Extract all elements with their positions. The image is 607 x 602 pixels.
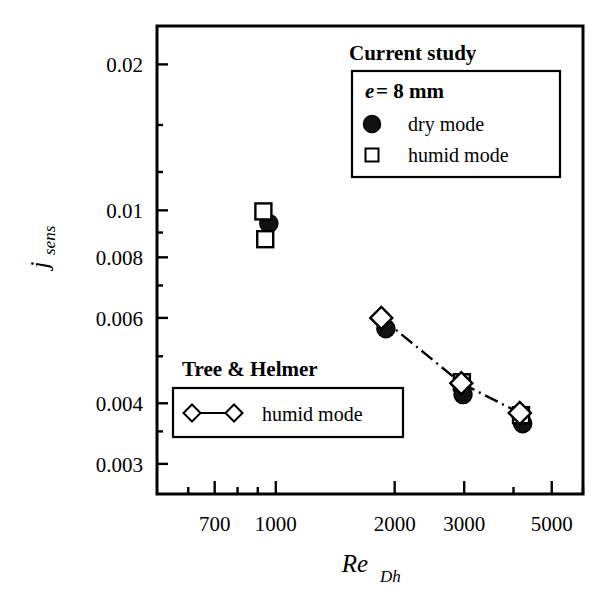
legend-current-study-item-0-label: dry mode: [408, 113, 484, 136]
data-point-marker: [255, 203, 271, 219]
y-axis-tick-label-4: 0.01: [106, 199, 143, 223]
x-axis-tick-label-4: 5000: [531, 512, 573, 536]
legend-current-study-title-rest: = 8 mm: [376, 79, 444, 103]
data-point-marker: [257, 231, 273, 247]
plot-background: [0, 0, 607, 602]
x-axis-tick-label-2: 2000: [374, 512, 416, 536]
legend-marker-filled-circle-icon: [364, 116, 381, 133]
x-axis-title-subscript: Dh: [379, 567, 401, 586]
legend-tree-helmer-item-0-label: humid mode: [262, 403, 363, 425]
chart-figure: 0.0030.0040.0060.0080.010.02 70010002000…: [0, 0, 607, 602]
y-axis-tick-label-2: 0.006: [96, 307, 143, 331]
scatter-plot-svg: 0.0030.0040.0060.0080.010.02 70010002000…: [0, 0, 607, 602]
x-axis-tick-label-3: 3000: [443, 512, 485, 536]
y-axis-tick-label-3: 0.008: [96, 246, 143, 270]
x-axis-tick-label-1: 1000: [255, 512, 297, 536]
legend-current-study-title-symbol: e: [365, 79, 374, 103]
y-axis-tick-label-0: 0.003: [96, 453, 143, 477]
y-axis-tick-label-5: 0.02: [106, 53, 143, 77]
y-axis-tick-label-1: 0.004: [96, 392, 144, 416]
legend-marker-open-square-icon: [366, 149, 379, 162]
y-axis-title-subscript: sens: [40, 225, 59, 255]
legend-current-study-heading: Current study: [349, 41, 477, 65]
x-axis-tick-label-0: 700: [199, 512, 231, 536]
legend-tree-helmer-heading: Tree & Helmer: [182, 357, 318, 381]
x-axis-title-main: Re: [341, 550, 368, 577]
legend-current-study-item-1-label: humid mode: [408, 144, 509, 166]
